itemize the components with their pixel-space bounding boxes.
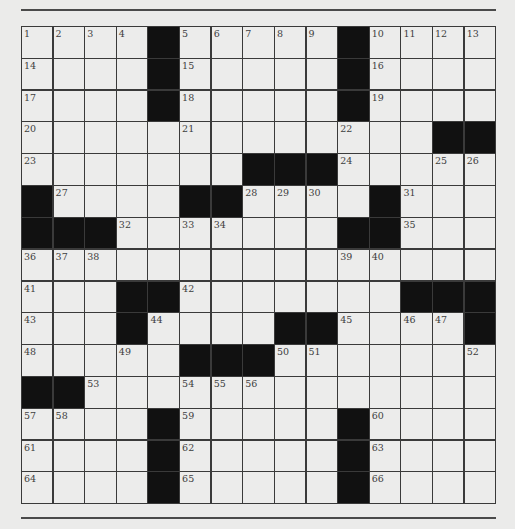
grid-cell-r4c13[interactable]: 25 [433, 154, 463, 185]
grid-cell-r12c6[interactable] [212, 409, 242, 440]
grid-cell-r1c12[interactable] [401, 59, 431, 90]
grid-cell-r4c3[interactable] [117, 154, 147, 185]
grid-cell-r3c11[interactable] [370, 122, 400, 153]
grid-cell-r10c0[interactable]: 48 [22, 345, 52, 376]
grid-cell-r2c14[interactable] [465, 91, 495, 122]
grid-cell-r12c2[interactable] [85, 409, 115, 440]
grid-cell-r9c4[interactable]: 44 [148, 313, 178, 344]
grid-cell-r12c13[interactable] [433, 409, 463, 440]
grid-cell-r2c1[interactable] [54, 91, 84, 122]
grid-cell-r7c2[interactable]: 38 [85, 250, 115, 281]
grid-cell-r7c8[interactable] [275, 250, 305, 281]
grid-cell-r1c3[interactable] [117, 59, 147, 90]
grid-cell-r3c7[interactable] [243, 122, 273, 153]
grid-cell-r6c4[interactable] [148, 218, 178, 249]
grid-cell-r6c7[interactable] [243, 218, 273, 249]
grid-cell-r2c11[interactable]: 19 [370, 91, 400, 122]
grid-cell-r0c0[interactable]: 1 [22, 27, 52, 58]
grid-cell-r10c2[interactable] [85, 345, 115, 376]
grid-cell-r12c0[interactable]: 57 [22, 409, 52, 440]
grid-cell-r14c11[interactable]: 66 [370, 472, 400, 503]
grid-cell-r2c7[interactable] [243, 91, 273, 122]
grid-cell-r6c3[interactable]: 32 [117, 218, 147, 249]
grid-cell-r7c7[interactable] [243, 250, 273, 281]
grid-cell-r10c10[interactable] [338, 345, 368, 376]
grid-cell-r13c1[interactable] [54, 441, 84, 472]
grid-cell-r12c3[interactable] [117, 409, 147, 440]
grid-cell-r10c13[interactable] [433, 345, 463, 376]
grid-cell-r8c6[interactable] [212, 282, 242, 313]
grid-cell-r7c12[interactable] [401, 250, 431, 281]
grid-cell-r13c12[interactable] [401, 441, 431, 472]
grid-cell-r12c1[interactable]: 58 [54, 409, 84, 440]
grid-cell-r2c9[interactable] [307, 91, 337, 122]
grid-cell-r9c0[interactable]: 43 [22, 313, 52, 344]
grid-cell-r3c3[interactable] [117, 122, 147, 153]
grid-cell-r2c8[interactable] [275, 91, 305, 122]
grid-cell-r11c7[interactable]: 56 [243, 377, 273, 408]
grid-cell-r10c9[interactable]: 51 [307, 345, 337, 376]
grid-cell-r7c11[interactable]: 40 [370, 250, 400, 281]
grid-cell-r2c13[interactable] [433, 91, 463, 122]
grid-cell-r13c11[interactable]: 63 [370, 441, 400, 472]
grid-cell-r9c10[interactable]: 45 [338, 313, 368, 344]
grid-cell-r2c0[interactable]: 17 [22, 91, 52, 122]
grid-cell-r9c12[interactable]: 46 [401, 313, 431, 344]
grid-cell-r13c3[interactable] [117, 441, 147, 472]
grid-cell-r4c1[interactable] [54, 154, 84, 185]
grid-cell-r5c4[interactable] [148, 186, 178, 217]
grid-cell-r12c8[interactable] [275, 409, 305, 440]
grid-cell-r7c0[interactable]: 36 [22, 250, 52, 281]
grid-cell-r14c1[interactable] [54, 472, 84, 503]
grid-cell-r7c3[interactable] [117, 250, 147, 281]
grid-cell-r8c5[interactable]: 42 [180, 282, 210, 313]
grid-cell-r13c6[interactable] [212, 441, 242, 472]
grid-cell-r6c9[interactable] [307, 218, 337, 249]
grid-cell-r12c11[interactable]: 60 [370, 409, 400, 440]
grid-cell-r10c1[interactable] [54, 345, 84, 376]
grid-cell-r0c6[interactable]: 6 [212, 27, 242, 58]
grid-cell-r11c4[interactable] [148, 377, 178, 408]
grid-cell-r3c10[interactable]: 22 [338, 122, 368, 153]
grid-cell-r8c9[interactable] [307, 282, 337, 313]
grid-cell-r5c8[interactable]: 29 [275, 186, 305, 217]
grid-cell-r6c5[interactable]: 33 [180, 218, 210, 249]
grid-cell-r14c7[interactable] [243, 472, 273, 503]
grid-cell-r10c3[interactable]: 49 [117, 345, 147, 376]
grid-cell-r9c2[interactable] [85, 313, 115, 344]
grid-cell-r5c1[interactable]: 27 [54, 186, 84, 217]
grid-cell-r5c7[interactable]: 28 [243, 186, 273, 217]
grid-cell-r6c6[interactable]: 34 [212, 218, 242, 249]
grid-cell-r0c5[interactable]: 5 [180, 27, 210, 58]
grid-cell-r10c12[interactable] [401, 345, 431, 376]
grid-cell-r8c1[interactable] [54, 282, 84, 313]
grid-cell-r6c8[interactable] [275, 218, 305, 249]
grid-cell-r5c9[interactable]: 30 [307, 186, 337, 217]
grid-cell-r1c14[interactable] [465, 59, 495, 90]
grid-cell-r1c8[interactable] [275, 59, 305, 90]
grid-cell-r13c8[interactable] [275, 441, 305, 472]
grid-cell-r5c14[interactable] [465, 186, 495, 217]
grid-cell-r3c0[interactable]: 20 [22, 122, 52, 153]
grid-cell-r7c1[interactable]: 37 [54, 250, 84, 281]
grid-cell-r4c6[interactable] [212, 154, 242, 185]
grid-cell-r1c1[interactable] [54, 59, 84, 90]
grid-cell-r14c12[interactable] [401, 472, 431, 503]
grid-cell-r0c14[interactable]: 13 [465, 27, 495, 58]
grid-cell-r10c4[interactable] [148, 345, 178, 376]
grid-cell-r11c10[interactable] [338, 377, 368, 408]
grid-cell-r5c12[interactable]: 31 [401, 186, 431, 217]
grid-cell-r2c6[interactable] [212, 91, 242, 122]
grid-cell-r0c2[interactable]: 3 [85, 27, 115, 58]
grid-cell-r5c13[interactable] [433, 186, 463, 217]
grid-cell-r4c2[interactable] [85, 154, 115, 185]
grid-cell-r11c9[interactable] [307, 377, 337, 408]
grid-cell-r0c7[interactable]: 7 [243, 27, 273, 58]
grid-cell-r6c13[interactable] [433, 218, 463, 249]
grid-cell-r9c13[interactable]: 47 [433, 313, 463, 344]
grid-cell-r14c2[interactable] [85, 472, 115, 503]
grid-cell-r4c4[interactable] [148, 154, 178, 185]
grid-cell-r14c5[interactable]: 65 [180, 472, 210, 503]
grid-cell-r0c9[interactable]: 9 [307, 27, 337, 58]
grid-cell-r0c11[interactable]: 10 [370, 27, 400, 58]
